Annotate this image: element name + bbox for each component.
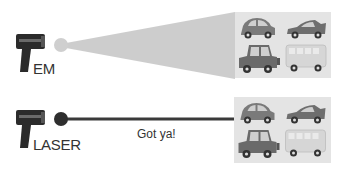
- jeep-icon: [239, 45, 280, 73]
- sports-car-icon: [287, 20, 326, 39]
- hatchback-car-icon: [241, 103, 275, 124]
- em-beam: [52, 10, 237, 82]
- hatchback-car-icon: [241, 18, 275, 39]
- sports-car-icon: [287, 105, 326, 124]
- jeep-icon: [239, 130, 280, 158]
- em-targets-panel: [235, 12, 331, 78]
- van-icon: [286, 130, 326, 157]
- laser-label: LASER: [33, 136, 81, 153]
- laser-targets-panel: [234, 97, 331, 163]
- van-icon: [286, 45, 326, 72]
- laser-caption: Got ya!: [137, 127, 176, 141]
